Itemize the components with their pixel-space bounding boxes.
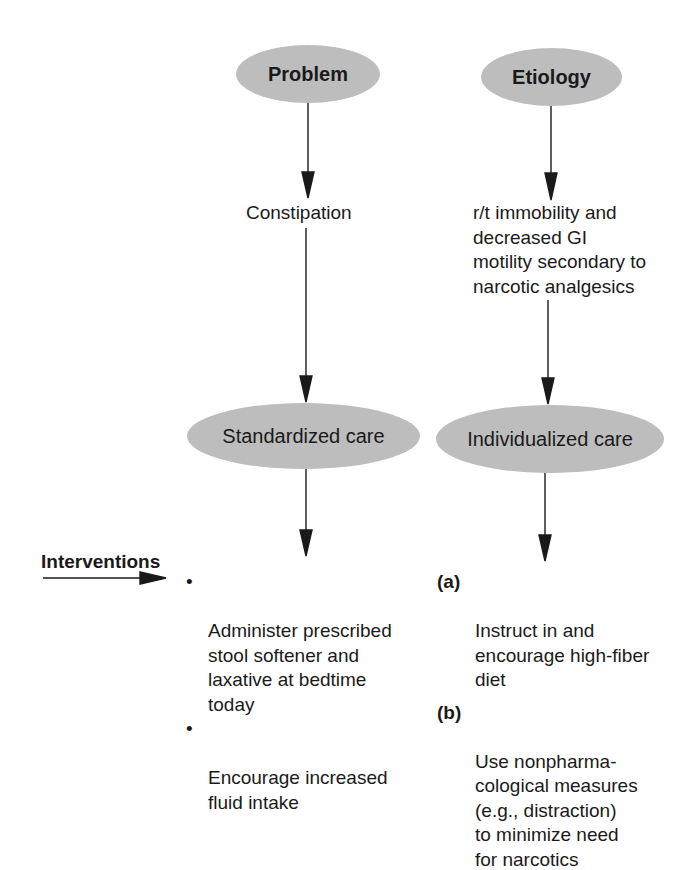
intervention-text: Encourage increased fluid intake: [208, 767, 388, 813]
standardized-interventions-list: • Administer prescribed stool softener a…: [186, 570, 392, 815]
item-marker: (b): [437, 701, 461, 726]
list-item: (b) Use nonpharma- cological measures (e…: [437, 701, 649, 870]
bullet-icon: •: [186, 717, 193, 742]
etiology-line: r/t immobility and: [473, 201, 646, 226]
intervention-text: Instruct in and encourage high-fiber die…: [475, 620, 649, 690]
etiology-line: decreased GI: [473, 226, 646, 251]
etiology-line: motility secondary to: [473, 250, 646, 275]
standardized-care-node: Standardized care: [187, 403, 420, 469]
problem-node-label: Problem: [268, 63, 348, 86]
interventions-label: Interventions: [41, 550, 160, 575]
item-marker: (a): [437, 570, 460, 595]
individualized-care-node: Individualized care: [436, 405, 664, 473]
bullet-icon: •: [186, 570, 193, 595]
list-item: • Encourage increased fluid intake: [186, 717, 392, 815]
individualized-care-label: Individualized care: [467, 428, 633, 451]
individualized-interventions-list: (a) Instruct in and encourage high-fiber…: [437, 570, 649, 870]
intervention-text: Use nonpharma- cological measures (e.g.,…: [475, 751, 638, 870]
list-item: (a) Instruct in and encourage high-fiber…: [437, 570, 649, 693]
etiology-node: Etiology: [481, 48, 622, 106]
etiology-line: narcotic analgesics: [473, 275, 646, 300]
etiology-statement: r/t immobility and decreased GI motility…: [473, 201, 646, 299]
etiology-node-label: Etiology: [512, 66, 591, 89]
list-item: • Administer prescribed stool softener a…: [186, 570, 392, 717]
standardized-care-label: Standardized care: [222, 425, 384, 448]
intervention-text: Administer prescribed stool softener and…: [208, 620, 392, 715]
problem-node: Problem: [236, 45, 380, 103]
problem-statement: Constipation: [246, 201, 352, 226]
